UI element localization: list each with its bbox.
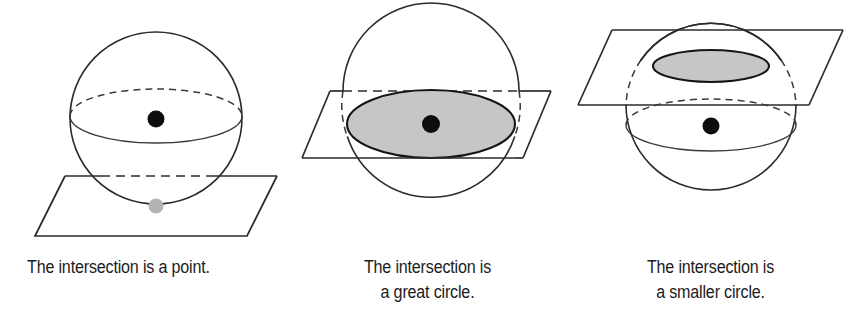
- panel-smaller-circle: The intersection is a smaller circle.: [568, 0, 853, 327]
- plane-left-edge: [302, 91, 330, 158]
- sphere-arc-left-hidden: [626, 60, 641, 105]
- tangent-point-dot: [149, 199, 164, 214]
- diagram-great-circle: [285, 0, 570, 250]
- sphere-arc-right-hidden: [781, 60, 796, 105]
- shaded-smaller-circle-disc: [653, 50, 769, 82]
- sphere-center-dot: [422, 115, 440, 133]
- sphere-center-dot: [703, 118, 720, 135]
- plane-right-edge: [523, 91, 551, 158]
- sphere-center-dot: [148, 111, 165, 128]
- sphere-arc-upper: [343, 3, 519, 91]
- caption-great-circle: The intersection is a great circle.: [296, 255, 558, 305]
- diagram-smaller-circle: [568, 0, 853, 250]
- panel-great-circle: The intersection is a great circle.: [285, 0, 570, 327]
- sphere-arc-left-hidden: [342, 91, 348, 137]
- plane-right-edge: [809, 30, 843, 105]
- plane-left-edge: [578, 30, 612, 105]
- panel-tangent-plane: The intersection is a point.: [0, 0, 285, 327]
- diagram-tangent-plane: [0, 0, 285, 250]
- sphere-arc-right-hidden: [515, 91, 521, 137]
- sphere-plane-intersection-figure: The intersection is a point.: [0, 0, 853, 327]
- caption-tangent-plane: The intersection is a point.: [2, 255, 264, 280]
- caption-smaller-circle: The intersection is a smaller circle.: [579, 255, 841, 305]
